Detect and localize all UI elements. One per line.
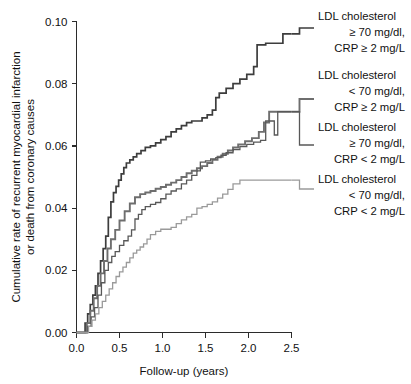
- series-line-3: [77, 180, 292, 332]
- y-tick-label: 0.08: [45, 78, 67, 90]
- y-tick-label: 0.06: [45, 140, 67, 152]
- legend-leader-group: [292, 28, 315, 189]
- legend-label-3-line1: LDL cholesterol: [318, 173, 396, 185]
- y-tick-label: 0.00: [45, 327, 67, 339]
- x-tick-label: 2.0: [241, 342, 257, 354]
- legend-label-1-line3: CRP ≥ 2 mg/L: [334, 101, 405, 113]
- x-axis-title: Follow-up (years): [140, 365, 229, 377]
- legend-leader-3: [292, 180, 315, 189]
- series-group: [77, 34, 292, 333]
- legend: LDL cholesterol≥ 70 mg/dl,CRP ≥ 2 mg/LLD…: [318, 10, 405, 217]
- y-axis-title-line2: or death from coronary causes: [24, 99, 36, 255]
- legend-label-2-line1: LDL cholesterol: [318, 121, 396, 133]
- y-tick-group: [72, 22, 77, 333]
- legend-label-1-line1: LDL cholesterol: [318, 69, 396, 81]
- x-tick-label: 0.5: [112, 342, 128, 354]
- y-tick-label: 0.02: [45, 264, 67, 276]
- legend-label-0-line3: CRP ≥ 2 mg/L: [334, 42, 405, 54]
- legend-label-2-line2: ≥ 70 mg/dl,: [349, 137, 405, 149]
- y-tick-label-group: 0.000.020.040.060.080.10: [45, 16, 68, 339]
- x-tick-label: 0.0: [69, 342, 85, 354]
- y-tick-label: 0.04: [45, 202, 68, 214]
- legend-label-1-line2: < 70 mg/dl,: [349, 85, 405, 97]
- kaplan-meier-figure: 0.000.020.040.060.080.10 0.00.51.01.52.0…: [0, 0, 411, 384]
- x-tick-group: [77, 333, 292, 338]
- y-tick-label: 0.10: [45, 16, 67, 28]
- x-tick-label: 1.5: [198, 342, 214, 354]
- chart-canvas: 0.000.020.040.060.080.10 0.00.51.01.52.0…: [0, 0, 411, 384]
- legend-label-0-line1: LDL cholesterol: [318, 10, 396, 22]
- x-tick-label-group: 0.00.51.01.52.02.5: [69, 342, 300, 354]
- legend-leader-0: [292, 28, 315, 34]
- legend-label-3-line2: < 70 mg/dl,: [349, 189, 405, 201]
- x-tick-label: 2.5: [284, 342, 300, 354]
- x-tick-label: 1.0: [155, 342, 171, 354]
- y-axis-title-line1: Cumulative rate of recurrent myocardial …: [10, 51, 22, 302]
- legend-leader-2: [292, 112, 315, 145]
- legend-label-3-line3: CRP < 2 mg/L: [334, 205, 405, 217]
- legend-label-0-line2: ≥ 70 mg/dl,: [349, 26, 405, 38]
- legend-leader-1: [292, 99, 315, 112]
- axis-group: 0.000.020.040.060.080.10 0.00.51.01.52.0…: [45, 16, 299, 354]
- legend-label-2-line3: CRP < 2 mg/L: [334, 153, 405, 165]
